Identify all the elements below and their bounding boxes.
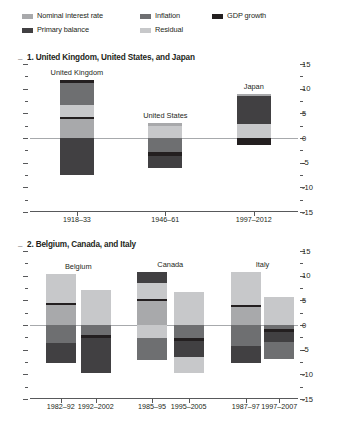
y-tick-right-12.5 xyxy=(300,76,303,77)
y-tick-left-5 xyxy=(23,300,28,301)
legend-item-primary-balance: Primary balance xyxy=(22,26,140,34)
y-tick-left-2.5 xyxy=(25,313,28,314)
bar-segment-inflation xyxy=(137,338,167,360)
bar-segment-gdp-growth xyxy=(60,80,94,83)
y-axis-label--10: -10 xyxy=(302,371,324,378)
legend-row-2: Primary balance Residual xyxy=(22,26,332,37)
panel-2-title: 2. Belgium, Canada, and Italy xyxy=(27,240,136,249)
y-axis-label--5: -5 xyxy=(302,346,324,353)
bar-segment-residual xyxy=(137,325,167,338)
bar-segment-residual xyxy=(137,283,167,299)
bar-segment-primary-balance xyxy=(264,332,294,342)
bar-country-label-belgium: Belgium xyxy=(38,263,118,271)
legend-label-primary-balance: Primary balance xyxy=(37,26,89,34)
bar-united-states-1946-61[interactable] xyxy=(148,64,182,212)
y-axis-label-15: 15 xyxy=(302,248,324,255)
x-axis-label-1992-2002: 1992–2002 xyxy=(66,403,126,411)
x-axis-label-1918-33: 1918–33 xyxy=(47,216,107,224)
y-axis-label-5: 5 xyxy=(302,297,324,304)
y-tick-left--12.5 xyxy=(25,387,28,388)
bar-belgium-1992-2002[interactable] xyxy=(81,251,111,399)
bar-segment-gdp-growth xyxy=(60,117,94,119)
bar-segment-residual xyxy=(81,290,111,325)
y-tick-left-2.5 xyxy=(25,126,28,127)
bar-canada-1995-2005[interactable] xyxy=(174,251,204,399)
bar-italy-1987-97[interactable] xyxy=(231,251,261,399)
y-tick-left-12.5 xyxy=(25,263,28,264)
y-tick-right--12.5 xyxy=(300,387,303,388)
y-tick-left-5 xyxy=(23,113,28,114)
legend-label-inflation: Inflation xyxy=(155,12,180,20)
bar-country-label-united-kingdom: United Kingdom xyxy=(37,69,117,77)
bar-country-label-italy: Italy xyxy=(222,261,302,269)
y-tick-right--7.5 xyxy=(300,175,303,176)
legend-swatch-nominal-interest-rate xyxy=(22,14,33,19)
bar-belgium-1982-92[interactable] xyxy=(46,251,76,399)
legend-item-residual: Residual xyxy=(140,26,212,34)
y-tick-left--15 xyxy=(23,212,28,213)
bar-segment-inflation xyxy=(174,325,204,338)
y-tick-right-2.5 xyxy=(300,313,303,314)
y-tick-right-2.5 xyxy=(300,126,303,127)
bar-segment-nominal-interest-rate xyxy=(231,307,261,325)
y-tick-left--2.5 xyxy=(25,337,28,338)
y-axis-label-10: 10 xyxy=(302,272,324,279)
bar-segment-residual xyxy=(60,105,94,117)
panel-1-title-dash: – xyxy=(18,54,22,63)
bar-segment-gdp-growth xyxy=(46,303,76,305)
bar-segment-inflation xyxy=(60,83,94,105)
y-tick-left-0 xyxy=(23,138,28,139)
y-tick-left--12.5 xyxy=(25,200,28,201)
bar-segment-gdp-growth xyxy=(237,138,271,145)
bar-segment-primary-balance xyxy=(81,338,111,373)
legend-item-nominal-interest-rate: Nominal interest rate xyxy=(22,12,140,20)
x-axis-label-1946-61: 1946–61 xyxy=(135,216,195,224)
y-tick-right-7.5 xyxy=(300,101,303,102)
legend-row-1: Nominal interest rate Inflation GDP grow… xyxy=(22,12,332,23)
bar-united-kingdom-1918-33[interactable] xyxy=(60,64,94,212)
bar-segment-residual xyxy=(46,274,76,303)
bar-segment-gdp-growth xyxy=(137,299,167,301)
chart-page: Nominal interest rate Inflation GDP grow… xyxy=(0,0,350,433)
legend-item-inflation: Inflation xyxy=(140,12,212,20)
bar-country-label-united-states: United States xyxy=(125,112,205,120)
y-axis-label--5: -5 xyxy=(302,159,324,166)
bar-segment-primary-balance xyxy=(137,272,167,283)
bar-segment-nominal-interest-rate xyxy=(137,301,167,325)
bar-segment-nominal-interest-rate xyxy=(148,123,182,126)
y-tick-left-15 xyxy=(23,64,28,65)
y-tick-left-7.5 xyxy=(25,288,28,289)
y-axis-label-5: 5 xyxy=(302,110,324,117)
x-axis-label-1997-2007: 1997–2007 xyxy=(249,403,309,411)
legend-swatch-primary-balance xyxy=(22,28,33,33)
chart-panel-2: – 2. Belgium, Canada, and Italy 151050-5… xyxy=(0,237,350,417)
legend-label-gdp-growth: GDP growth xyxy=(227,12,266,20)
bar-segment-residual xyxy=(148,126,182,138)
y-tick-right--2.5 xyxy=(300,337,303,338)
bar-segment-inflation xyxy=(231,325,261,346)
bar-italy-1997-2007[interactable] xyxy=(264,251,294,399)
y-tick-left--5 xyxy=(23,350,28,351)
bar-segment-inflation xyxy=(148,138,182,152)
y-axis-label-0: 0 xyxy=(302,322,324,329)
legend-swatch-gdp-growth xyxy=(212,14,223,19)
y-tick-left--15 xyxy=(23,399,28,400)
panel-2-plot-area: 151050-5-10-15BelgiumCanadaItaly1982–921… xyxy=(30,251,298,399)
bar-segment-residual xyxy=(231,272,261,306)
bar-segment-gdp-growth xyxy=(231,305,261,307)
bar-segment-inflation xyxy=(46,325,76,343)
y-tick-left--2.5 xyxy=(25,150,28,151)
y-tick-right-7.5 xyxy=(300,288,303,289)
chart-legend: Nominal interest rate Inflation GDP grow… xyxy=(22,12,332,40)
bar-segment-residual xyxy=(174,357,204,374)
bar-canada-1985-95[interactable] xyxy=(137,251,167,399)
legend-label-residual: Residual xyxy=(155,26,183,34)
y-axis-label--15: -15 xyxy=(302,209,324,216)
y-tick-right--12.5 xyxy=(300,200,303,201)
y-axis-label--10: -10 xyxy=(302,184,324,191)
legend-swatch-inflation xyxy=(140,14,151,19)
bar-segment-inflation xyxy=(81,325,111,335)
y-axis-label--15: -15 xyxy=(302,396,324,403)
legend-label-nominal-interest-rate: Nominal interest rate xyxy=(37,12,103,20)
bar-segment-residual xyxy=(174,292,204,325)
